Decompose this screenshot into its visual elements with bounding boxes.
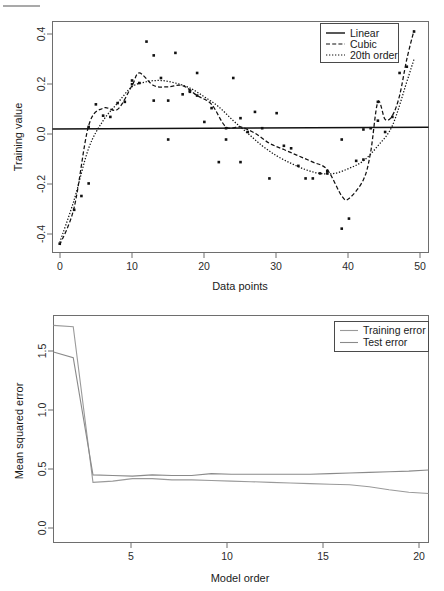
data-point xyxy=(218,161,221,164)
data-point xyxy=(290,147,293,150)
data-point xyxy=(254,111,257,114)
data-point xyxy=(239,117,242,120)
data-point xyxy=(109,116,112,119)
data-point xyxy=(413,30,416,33)
data-point xyxy=(246,131,249,134)
data-point xyxy=(326,172,329,175)
data-point xyxy=(369,127,372,130)
data-point xyxy=(362,128,365,131)
data-point xyxy=(80,195,83,198)
data-point xyxy=(232,77,235,80)
data-point xyxy=(116,102,119,105)
x-tick-label: 5 xyxy=(128,550,134,562)
legend-label-test-error: Test error xyxy=(363,336,408,348)
data-point xyxy=(225,127,228,130)
x-tick-label: 30 xyxy=(270,260,282,272)
data-point xyxy=(377,101,380,104)
x-tick-label: 40 xyxy=(342,260,354,272)
y-tick-label: 0.5 xyxy=(36,462,48,477)
data-point xyxy=(377,119,380,122)
legend-label-training-error: Training error xyxy=(363,324,426,336)
data-point xyxy=(261,127,264,130)
y-tick-label: 1.0 xyxy=(36,403,48,418)
data-point xyxy=(406,65,409,68)
data-point xyxy=(174,52,177,55)
y-axis-title: Mean squared error xyxy=(13,382,25,479)
data-point xyxy=(167,138,170,141)
data-point xyxy=(145,40,148,43)
x-axis: 5 10 15 20 xyxy=(128,543,425,563)
data-point xyxy=(340,138,343,141)
x-tick-label: 0 xyxy=(57,260,63,272)
data-point xyxy=(239,161,242,164)
data-point xyxy=(340,227,343,230)
data-point xyxy=(189,91,192,94)
x-tick-label: 10 xyxy=(126,260,138,272)
y-axis-title: Training value xyxy=(12,103,24,172)
data-point xyxy=(203,121,206,124)
x-axis-title: Model order xyxy=(211,572,270,584)
data-point xyxy=(131,79,134,82)
data-point xyxy=(181,93,184,96)
y-tick-label: 0.0 xyxy=(35,127,47,142)
data-point xyxy=(87,126,90,129)
legend-label-20th-order: 20th order xyxy=(350,49,398,61)
data-point xyxy=(348,217,351,220)
x-tick-label: 20 xyxy=(413,550,425,562)
data-point xyxy=(398,72,401,75)
data-point xyxy=(391,116,394,119)
data-point xyxy=(138,82,141,85)
data-point xyxy=(95,103,98,106)
data-point xyxy=(87,182,90,185)
y-tick-label: -0.4 xyxy=(35,225,47,243)
y-tick-label: 1.5 xyxy=(36,344,48,359)
data-point xyxy=(304,177,307,180)
x-tick-label: 15 xyxy=(317,550,329,562)
x-tick-label: 10 xyxy=(221,550,233,562)
x-tick-label: 50 xyxy=(414,260,426,272)
data-point xyxy=(297,165,300,168)
training-value-chart: 0.4 0.2 0.0 -0.2 -0.4 Training value 0 1… xyxy=(0,0,444,300)
mse-model-order-chart: 0.0 0.5 1.0 1.5 Mean squared error 5 10 … xyxy=(0,291,444,591)
y-tick-label: 0.0 xyxy=(36,521,48,536)
data-point xyxy=(225,138,228,141)
data-point xyxy=(283,144,286,147)
y-tick-label: 0.2 xyxy=(35,77,47,92)
data-point xyxy=(196,72,199,75)
y-tick-label: 0.4 xyxy=(35,27,47,42)
data-point xyxy=(58,242,61,245)
data-point xyxy=(275,112,278,115)
legend[interactable]: Training error Test error xyxy=(335,322,429,352)
x-axis: 0 10 20 30 40 50 xyxy=(57,253,426,273)
data-point xyxy=(131,83,134,86)
x-tick-label: 20 xyxy=(198,260,210,272)
data-point xyxy=(326,170,329,173)
data-point xyxy=(102,114,105,117)
data-point xyxy=(268,177,271,180)
data-point xyxy=(73,209,76,212)
data-point xyxy=(362,158,365,161)
data-point xyxy=(319,172,322,175)
data-point xyxy=(124,101,127,104)
y-tick-label: -0.2 xyxy=(35,175,47,193)
data-point xyxy=(384,131,387,134)
data-point xyxy=(210,107,213,110)
y-axis: 0.4 0.2 0.0 -0.2 -0.4 xyxy=(35,27,53,243)
legend[interactable]: Linear Cubic 20th order xyxy=(321,24,399,63)
data-point xyxy=(355,160,358,163)
data-point xyxy=(167,99,170,102)
data-point xyxy=(312,177,315,180)
data-point xyxy=(160,77,163,80)
data-point xyxy=(196,94,199,97)
y-axis: 0.0 0.5 1.0 1.5 xyxy=(36,344,54,536)
series-line-20th-order xyxy=(60,59,414,242)
series-line-test-error xyxy=(54,352,429,476)
data-point xyxy=(152,99,155,102)
data-point xyxy=(152,54,155,57)
